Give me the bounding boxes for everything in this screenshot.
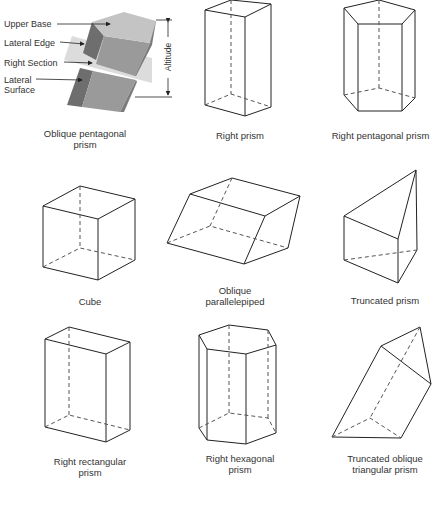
caption-truncated-oblique-triangular-prism: Truncated oblique triangular prism	[330, 454, 440, 475]
caption-cube: Cube	[35, 297, 145, 308]
right-hexagonal-prism-drawing	[199, 325, 276, 444]
label-upper-base: Upper Base	[4, 19, 52, 29]
prism-figure	[0, 0, 441, 516]
caption-right-rectangular-prism: Right rectangular prism	[35, 457, 145, 478]
truncated-prism-drawing	[344, 170, 417, 283]
label-lateral-edge: Lateral Edge	[4, 38, 55, 48]
cube-drawing	[43, 186, 135, 280]
label-right-section: Right Section	[4, 58, 58, 68]
label-altitude: Altitude	[163, 37, 173, 77]
oblique-parallelepiped-drawing	[167, 178, 300, 264]
caption-truncated-prism: Truncated prism	[330, 296, 440, 307]
truncated-oblique-triangular-prism-drawing	[332, 327, 431, 438]
right-rectangular-prism-drawing	[45, 327, 130, 442]
caption-right-pentagonal-prism: Right pentagonal prism	[320, 131, 441, 142]
caption-oblique-pentagonal-prism: Oblique pentagonal prism	[30, 129, 140, 150]
caption-right-hexagonal-prism: Right hexagonal prism	[185, 454, 295, 475]
label-lateral-surface: Lateral Surface	[4, 75, 35, 95]
right-pentagonal-prism-drawing	[344, 0, 415, 111]
right-prism-drawing	[205, 0, 271, 116]
caption-right-prism: Right prism	[185, 131, 295, 142]
caption-oblique-parallelepiped: Oblique parallelepiped	[180, 286, 290, 307]
